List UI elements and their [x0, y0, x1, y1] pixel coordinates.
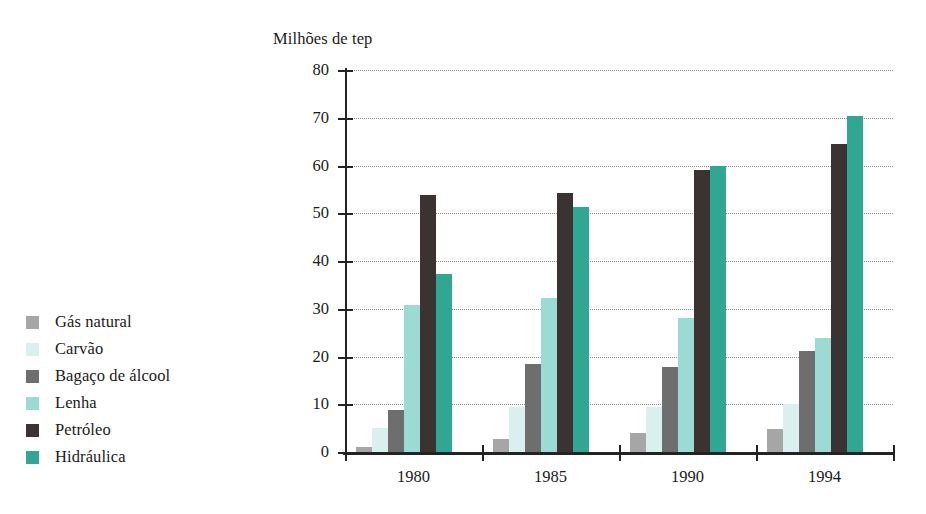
bar: [372, 428, 388, 452]
legend-item: Hidráulica: [26, 444, 256, 471]
bar: [710, 166, 726, 452]
bar: [509, 407, 525, 452]
legend-item-label: Gás natural: [55, 314, 132, 331]
x-axis-line: [343, 452, 893, 455]
legend-color-swatch: [26, 316, 39, 329]
legend-item-label: Bagaço de álcool: [55, 368, 170, 385]
y-axis-tick: [338, 357, 353, 359]
bar: [493, 439, 509, 452]
bar: [847, 116, 863, 452]
bar: [541, 298, 557, 452]
bar: [662, 367, 678, 452]
legend-item: Bagaço de álcool: [26, 363, 256, 390]
bar-group: [767, 70, 863, 452]
y-axis-tick-label: 50: [313, 203, 330, 223]
legend-item-label: Lenha: [55, 395, 97, 412]
bar: [630, 433, 646, 452]
legend-color-swatch: [26, 370, 39, 383]
chart-axis-unit-title: Milhões de tep: [273, 29, 372, 49]
bar: [525, 364, 541, 452]
x-axis-tick-label: 1980: [397, 467, 430, 487]
y-axis-tick: [338, 309, 353, 311]
x-axis-tick: [619, 445, 621, 461]
y-axis-tick-label: 40: [313, 251, 330, 271]
y-axis-tick-label: 60: [313, 156, 330, 176]
legend-item: Carvão: [26, 336, 256, 363]
bar: [767, 429, 783, 452]
legend-item: Gás natural: [26, 309, 256, 336]
y-axis-tick: [338, 404, 353, 406]
bar: [831, 144, 847, 452]
y-axis-tick: [338, 70, 353, 72]
legend-color-swatch: [26, 424, 39, 437]
bar: [404, 305, 420, 452]
chart-legend: Gás naturalCarvãoBagaço de álcoolLenhaPe…: [26, 309, 256, 471]
bar: [573, 207, 589, 452]
x-axis-tick: [893, 445, 895, 461]
bar: [815, 338, 831, 452]
y-axis-tick-label: 30: [313, 299, 330, 319]
y-axis-tick-label: 80: [313, 60, 330, 80]
x-axis-tick: [482, 445, 484, 461]
bar-chart-figure: Milhões de tep Gás naturalCarvãoBagaço d…: [0, 0, 926, 514]
y-axis-tick: [338, 213, 353, 215]
x-axis-tick-label: 1990: [671, 467, 704, 487]
bar: [356, 447, 372, 452]
legend-item: Lenha: [26, 390, 256, 417]
bar-group: [356, 70, 452, 452]
bar: [557, 193, 573, 452]
bar-group: [630, 70, 726, 452]
legend-item: Petróleo: [26, 417, 256, 444]
bar: [388, 410, 404, 452]
x-axis-tick: [345, 445, 347, 461]
y-axis-tick: [338, 261, 353, 263]
x-axis-tick-label: 1985: [534, 467, 567, 487]
legend-item-label: Hidráulica: [55, 449, 126, 466]
y-axis-tick-label: 10: [313, 394, 330, 414]
bar-group: [493, 70, 589, 452]
x-axis-tick: [756, 445, 758, 461]
legend-color-swatch: [26, 397, 39, 410]
bar: [436, 274, 452, 452]
bar: [420, 195, 436, 452]
y-axis-tick-label: 70: [313, 108, 330, 128]
x-axis-tick-label: 1994: [808, 467, 841, 487]
legend-color-swatch: [26, 451, 39, 464]
bar: [678, 318, 694, 452]
y-axis-tick-label: 0: [321, 442, 329, 462]
plot-area: 010203040506070801980198519901994: [345, 70, 893, 452]
bar: [646, 407, 662, 452]
legend-item-label: Carvão: [55, 341, 103, 358]
legend-color-swatch: [26, 343, 39, 356]
bar: [799, 351, 815, 452]
y-axis-tick-label: 20: [313, 347, 330, 367]
legend-item-label: Petróleo: [55, 422, 111, 439]
bar: [694, 170, 710, 452]
bar: [783, 404, 799, 452]
y-axis-tick: [338, 166, 353, 168]
y-axis-tick: [338, 118, 353, 120]
